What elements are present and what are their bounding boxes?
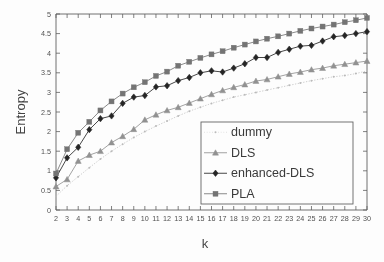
- x-tick-label: 24: [296, 214, 304, 223]
- data-point-marker: [199, 106, 201, 108]
- data-point-marker: [309, 26, 314, 31]
- y-tick-label: 2: [47, 127, 51, 136]
- x-tick-label: 20: [252, 214, 260, 223]
- y-tick-label: 4.5: [41, 29, 51, 38]
- data-point-marker: [87, 119, 92, 124]
- x-tick-label: 11: [152, 214, 159, 223]
- data-point-marker: [165, 69, 170, 74]
- legend-label-dls: DLS: [231, 146, 255, 160]
- data-point-marker: [144, 131, 146, 133]
- y-tick-label: 0: [47, 206, 51, 215]
- data-point-marker: [120, 91, 125, 96]
- data-point-marker: [310, 80, 312, 82]
- data-point-marker: [298, 28, 303, 33]
- data-point-marker: [65, 147, 70, 152]
- data-point-marker: [76, 130, 81, 135]
- data-point-marker: [320, 24, 325, 29]
- x-tick-label: 14: [185, 214, 193, 223]
- x-tick-label: 26: [319, 214, 327, 223]
- legend-sample-marker: [213, 191, 218, 196]
- x-tick-label: 28: [341, 214, 349, 223]
- x-tick-label: 8: [121, 214, 125, 223]
- legend-label-dummy: dummy: [231, 125, 273, 139]
- data-point-marker: [177, 115, 179, 117]
- legend-label-pla: PLA: [231, 187, 255, 201]
- x-tick-label: 30: [363, 214, 371, 223]
- x-tick-label: 27: [330, 214, 338, 223]
- data-point-marker: [276, 34, 281, 39]
- data-point-marker: [131, 85, 136, 90]
- data-point-marker: [133, 136, 135, 138]
- x-tick-label: 16: [208, 214, 216, 223]
- data-point-marker: [287, 31, 292, 36]
- x-tick-label: 18: [230, 214, 238, 223]
- data-point-marker: [166, 120, 168, 122]
- data-point-marker: [222, 99, 224, 101]
- data-point-marker: [233, 96, 235, 98]
- y-tick-label: 4: [47, 49, 51, 58]
- data-point-marker: [353, 18, 358, 23]
- data-point-marker: [355, 73, 357, 75]
- x-tick-label: 19: [241, 214, 249, 223]
- data-point-marker: [54, 171, 59, 176]
- data-point-marker: [142, 80, 147, 85]
- data-point-marker: [176, 63, 181, 68]
- x-tick-label: 3: [65, 214, 69, 223]
- data-point-marker: [77, 176, 79, 178]
- data-point-marker: [322, 78, 324, 80]
- x-tick-label: 4: [76, 214, 80, 223]
- entropy-vs-k-line-chart: 00.511.522.533.544.55 234567891011121314…: [0, 0, 384, 262]
- y-tick-label: 0.5: [41, 186, 51, 195]
- data-point-marker: [331, 22, 336, 27]
- data-point-marker: [209, 52, 214, 57]
- data-point-marker: [231, 45, 236, 50]
- data-point-marker: [98, 108, 103, 113]
- data-point-marker: [188, 110, 190, 112]
- x-tick-label: 10: [141, 214, 149, 223]
- data-point-marker: [333, 76, 335, 78]
- data-point-marker: [198, 55, 203, 60]
- y-tick-label: 2.5: [41, 108, 51, 117]
- y-axis-title: Entropy: [13, 89, 28, 134]
- x-tick-label: 6: [98, 214, 102, 223]
- data-point-marker: [288, 84, 290, 86]
- x-tick-label: 13: [174, 214, 182, 223]
- data-point-marker: [153, 73, 158, 78]
- x-tick-label: 29: [352, 214, 360, 223]
- data-point-marker: [365, 15, 370, 20]
- x-tick-label: 15: [196, 214, 204, 223]
- x-tick-label: 23: [285, 214, 293, 223]
- data-point-marker: [220, 49, 225, 54]
- x-tick-label: 9: [132, 214, 136, 223]
- data-point-marker: [342, 20, 347, 25]
- y-tick-label: 3.5: [41, 68, 51, 77]
- data-point-marker: [122, 143, 124, 145]
- data-point-marker: [366, 70, 368, 72]
- chart-legend: dummyDLSenhanced-DLSPLA: [201, 122, 353, 204]
- y-tick-label: 5: [47, 10, 51, 19]
- data-point-marker: [88, 167, 90, 169]
- data-point-marker: [211, 102, 213, 104]
- data-point-marker: [109, 99, 114, 104]
- data-point-marker: [187, 59, 192, 64]
- data-point-marker: [265, 36, 270, 41]
- data-point-marker: [266, 89, 268, 91]
- x-tick-label: 21: [263, 214, 271, 223]
- legend-box: [201, 122, 353, 204]
- data-point-marker: [244, 94, 246, 96]
- data-point-marker: [111, 150, 113, 152]
- x-tick-label: 25: [307, 214, 315, 223]
- y-tick-label: 1: [47, 166, 51, 175]
- y-tick-label: 3: [47, 88, 51, 97]
- data-point-marker: [66, 185, 68, 187]
- data-point-marker: [155, 125, 157, 127]
- x-tick-label: 7: [110, 214, 114, 223]
- data-point-marker: [299, 82, 301, 84]
- x-tick-label: 12: [163, 214, 171, 223]
- data-point-marker: [344, 75, 346, 77]
- data-point-marker: [277, 87, 279, 89]
- legend-sample-marker: [215, 131, 217, 133]
- legend-label-enhanced-dls: enhanced-DLS: [231, 166, 314, 180]
- y-tick-label: 1.5: [41, 147, 51, 156]
- x-tick-label: 2: [54, 214, 58, 223]
